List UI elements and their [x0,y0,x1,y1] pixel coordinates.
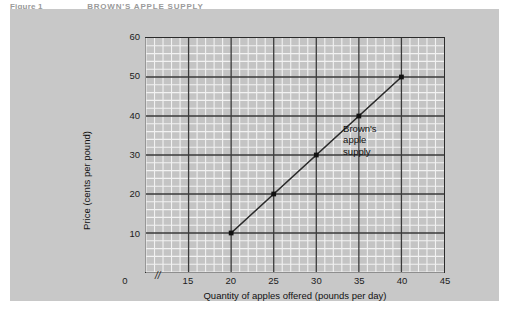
figure-caption: Figure 1 BROWN'S APPLE SUPPLY [0,0,510,9]
supply-curve-annotation: Brown's apple supply [343,123,377,158]
x-tick-label: 20 [216,275,246,286]
y-tick-label: 30 [114,150,140,160]
y-tick-label: 50 [114,71,140,81]
y-tick-label: 10 [114,229,140,239]
y-axis-title: Price (cents per pound) [81,101,92,261]
x-tick-label: 15 [173,275,203,286]
figure-panel: Price (cents per pound) 102030405060 Bro… [10,9,499,301]
x-tick-label: 30 [301,275,331,286]
x-axis-origin-label: 0 [113,275,137,286]
y-tick-label: 60 [114,32,140,42]
x-tick-label: 40 [387,275,417,286]
x-tick-label: 45 [430,275,460,286]
x-tick-label: 25 [259,275,289,286]
y-axis-ticks: 102030405060 [110,37,140,273]
y-axis-title-host: Price (cents per pound) [18,75,108,235]
x-tick-label: 35 [344,275,374,286]
x-axis-ticks: 15202530354045 [145,275,445,289]
figure-caption-label: Figure 1 [10,2,43,9]
y-tick-label: 40 [114,111,140,121]
x-axis-title: Quantity of apples offered (pounds per d… [145,290,445,301]
plot-area: Brown's apple supply [145,37,445,273]
supply-curve-layer [146,38,444,272]
figure-root: Figure 1 BROWN'S APPLE SUPPLY Price (cen… [0,0,510,310]
y-tick-label: 20 [114,189,140,199]
figure-caption-title: BROWN'S APPLE SUPPLY [87,2,203,9]
